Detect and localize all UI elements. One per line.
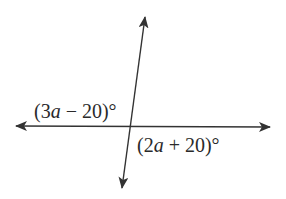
intersecting-lines-diagram: (3a − 20)° (2a + 20)° [0, 0, 286, 199]
slanted-line [122, 17, 145, 188]
angle-label-lower-right: (2a + 20)° [137, 134, 220, 157]
angle-label-upper-left: (3a − 20)° [34, 100, 117, 123]
horizontal-line [16, 126, 270, 127]
